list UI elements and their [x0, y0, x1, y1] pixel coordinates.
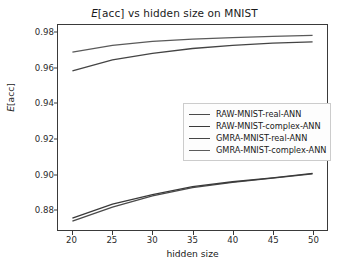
legend-item[interactable]: GMRA-MNIST-complex-ANN — [189, 144, 325, 156]
x-tick-label: 30 — [132, 235, 172, 245]
y-tick-label: 0.94 — [14, 98, 54, 108]
legend-item[interactable]: RAW-MNIST-real-ANN — [189, 108, 325, 120]
y-axis-label: E[acc] — [5, 63, 16, 133]
series-line — [72, 174, 312, 221]
y-tick-mark — [54, 103, 58, 104]
series-line — [72, 35, 312, 52]
y-tick-mark — [54, 210, 58, 211]
y-tick-label: 0.98 — [14, 27, 54, 37]
legend-line-icon — [189, 114, 210, 115]
y-tick-label: 0.90 — [14, 170, 54, 180]
x-tick-mark — [313, 231, 314, 235]
series-line — [72, 173, 312, 218]
x-tick-label: 35 — [173, 235, 213, 245]
y-tick-label: 0.92 — [14, 134, 54, 144]
y-tick-label: 0.88 — [14, 205, 54, 215]
x-tick-mark — [72, 231, 73, 235]
x-axis-label: hidden size — [57, 248, 328, 259]
x-tick-label: 40 — [213, 235, 253, 245]
legend-line-icon — [189, 126, 210, 127]
x-tick-label: 20 — [52, 235, 92, 245]
x-tick-mark — [193, 231, 194, 235]
x-tick-label: 25 — [92, 235, 132, 245]
chart-title-rest: [acc] vs hidden size on MNIST — [98, 7, 258, 19]
y-tick-mark — [54, 32, 58, 33]
y-axis-label-math-prefix: E — [5, 106, 16, 112]
x-tick-label: 50 — [293, 235, 333, 245]
x-tick-mark — [233, 231, 234, 235]
x-tick-mark — [112, 231, 113, 235]
legend-item[interactable]: RAW-MNIST-complex-ANN — [189, 120, 325, 132]
chart-title-math-prefix: E — [91, 7, 98, 19]
legend-item-label: GMRA-MNIST-real-ANN — [216, 133, 307, 143]
x-tick-mark — [152, 231, 153, 235]
legend-item-label: RAW-MNIST-real-ANN — [216, 109, 301, 119]
y-tick-label: 0.96 — [14, 63, 54, 73]
legend-item-label: RAW-MNIST-complex-ANN — [216, 121, 321, 131]
y-axis-label-rest: [acc] — [5, 83, 16, 106]
x-tick-label: 45 — [253, 235, 293, 245]
y-tick-mark — [54, 67, 58, 68]
legend-line-icon — [189, 138, 210, 139]
chart-legend[interactable]: RAW-MNIST-real-ANNRAW-MNIST-complex-ANNG… — [183, 103, 331, 161]
legend-line-icon — [189, 150, 210, 151]
legend-item-label: GMRA-MNIST-complex-ANN — [216, 145, 326, 155]
y-tick-mark — [54, 139, 58, 140]
x-tick-mark — [273, 231, 274, 235]
legend-item[interactable]: GMRA-MNIST-real-ANN — [189, 132, 325, 144]
y-tick-mark — [54, 174, 58, 175]
figure-canvas: E[acc] vs hidden size on MNIST 0.880.900… — [0, 0, 349, 275]
chart-title: E[acc] vs hidden size on MNIST — [0, 7, 349, 19]
